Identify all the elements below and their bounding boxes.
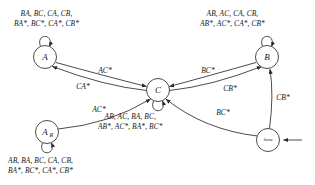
edge-c-to-b <box>169 67 261 91</box>
self-loop-label-c: AB, AC, BA, BC, AB*, AC*, BA*, BC* <box>98 112 162 131</box>
node-same-label: Same <box>263 137 272 142</box>
node-b[interactable]: B <box>256 46 279 69</box>
self-loop-label-c-line1: AB, AC, BA, BC, <box>98 112 162 122</box>
edge-label-same-to-c: BC* <box>216 108 230 117</box>
node-ar[interactable]: A R <box>36 121 59 144</box>
self-loop-label-b: AB, AC, CA, CB, AB*, AC*, CA*, CB* <box>200 9 265 28</box>
node-ar-sublabel: R <box>49 132 54 138</box>
edge-label-c-to-a: CA* <box>76 82 90 91</box>
self-loop-label-a: BA, BC, CA, CB, BA*, BC*, CA*, CB* <box>14 9 79 28</box>
edge-same-to-c <box>166 99 258 136</box>
state-machine-diagram: A B C A R Same AC* CA* BC* CB* AC* BC* C… <box>0 0 315 185</box>
self-loop-label-b-line1: AB, AC, CA, CB, <box>200 9 265 19</box>
edge-label-a-to-c: AC* <box>97 66 112 75</box>
self-loop-a <box>40 36 51 46</box>
self-loop-ar <box>42 143 53 153</box>
self-loop-b <box>262 36 273 46</box>
node-a-label: A <box>41 52 48 62</box>
edge-label-same-to-b: CB* <box>276 93 290 102</box>
node-ar-label: A <box>41 127 48 137</box>
node-c[interactable]: C <box>147 79 170 102</box>
self-loop-label-ar: AB, BA, BC, CA, CB, BA*, BC*, CA*, CB* <box>8 156 73 175</box>
node-a[interactable]: A <box>34 46 57 69</box>
self-loop-label-a-line1: BA, BC, CA, CB, <box>14 9 79 19</box>
node-c-label: C <box>155 85 162 95</box>
self-loop-label-c-line2: AB*, AC*, BA*, BC* <box>98 122 162 132</box>
self-loop-label-ar-line2: BA*, BC*, CA*, CB* <box>8 166 73 176</box>
self-loop-label-b-line2: AB*, AC*, CA*, CB* <box>200 19 265 29</box>
node-b-label: B <box>264 52 270 62</box>
self-loop-label-a-line2: BA*, BC*, CA*, CB* <box>14 19 79 29</box>
self-loop-c <box>153 101 164 111</box>
node-same[interactable]: Same <box>257 129 280 152</box>
self-loop-label-ar-line1: AB, BA, BC, CA, CB, <box>8 156 73 166</box>
edge-same-to-b <box>270 69 272 128</box>
edge-label-c-to-b: CB* <box>223 84 237 93</box>
edge-label-b-to-c: BC* <box>201 66 215 75</box>
